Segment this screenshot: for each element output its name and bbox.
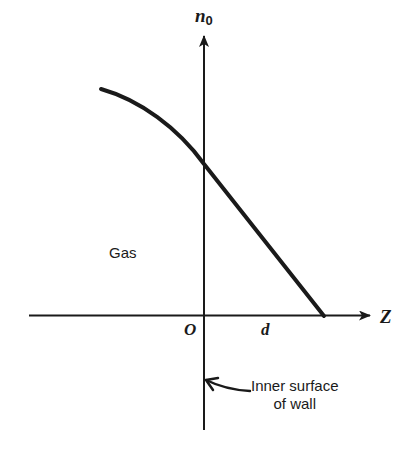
gas-region-label: Gas [109, 245, 137, 260]
origin-label: O [184, 321, 196, 338]
distance-label: d [261, 321, 270, 338]
diagram-canvas [0, 0, 420, 467]
y-axis-symbol: n [195, 5, 206, 26]
concentration-curve [101, 89, 324, 316]
wall-annotation: Inner surface of wall [251, 377, 339, 413]
y-axis-label: n0 [195, 6, 213, 27]
wall-annotation-line2: of wall [251, 395, 339, 413]
wall-annotation-line1: Inner surface [251, 377, 339, 395]
y-axis-subscript: 0 [206, 13, 213, 28]
x-axis-label: Z [380, 307, 392, 326]
